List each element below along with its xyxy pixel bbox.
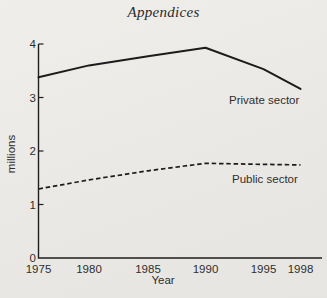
private-sector-line	[39, 48, 301, 89]
x-axis-label: Year	[151, 274, 174, 286]
x-tick-label: 1998	[288, 263, 314, 275]
x-tick-label: 1995	[251, 263, 277, 275]
y-tick-label: 4	[30, 38, 37, 50]
axis-spine	[39, 44, 323, 258]
x-tick-label: 1990	[193, 263, 219, 275]
chart-series	[39, 48, 301, 189]
y-tick-label: 2	[30, 145, 36, 157]
x-tick-label: 1980	[76, 263, 102, 275]
x-tick-label: 1975	[26, 263, 52, 275]
chart-axes: 01234197519801985199019951998	[26, 38, 322, 275]
line-chart: 01234197519801985199019951998 millions Y…	[0, 0, 327, 298]
y-tick-label: 1	[30, 199, 36, 211]
scanned-page: Appendices 01234197519801985199019951998…	[0, 0, 327, 298]
y-axis-label: millions	[5, 135, 17, 174]
series-label-public-sector: Public sector	[232, 173, 298, 185]
series-label-private-sector: Private sector	[229, 94, 299, 106]
y-tick-label: 3	[30, 92, 36, 104]
